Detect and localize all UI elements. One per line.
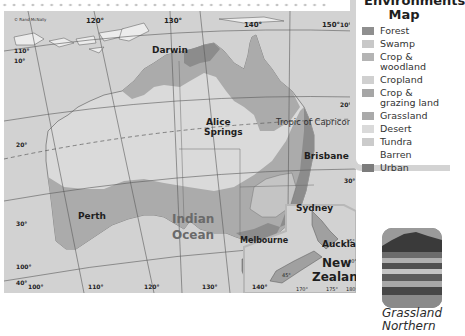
legend-title: Environments Map	[364, 0, 444, 22]
inset-label: Zealand	[312, 270, 356, 284]
lon-label-bottom: 100°	[28, 283, 44, 290]
lon-label-top: 120°	[86, 17, 104, 25]
legend-label: Barren	[380, 150, 412, 160]
legend-label: Crop & woodland	[380, 52, 440, 72]
legend-item-desert: Desert	[362, 124, 442, 134]
legend-item-barren: Barren	[362, 150, 442, 160]
lon-label-left: 100°	[16, 263, 32, 270]
ocean-label: Ocean	[172, 228, 214, 242]
legend-item-grassland: Grassland	[362, 111, 442, 121]
inset-label: New	[322, 256, 351, 270]
legend-item-crop-woodland: Crop & woodland	[362, 52, 442, 72]
lon-label-left: 110°	[14, 47, 30, 54]
swatch	[362, 89, 374, 97]
legend-item-crop-grazing: Crop & grazing land	[362, 88, 442, 108]
lon-label-bottom: 120°	[144, 283, 160, 290]
lon-label-top: 150°	[322, 21, 340, 29]
city-alice-springs: Alice	[206, 117, 231, 127]
lat-label-left: 30°	[16, 220, 27, 227]
inset-lon-label: 175°	[326, 286, 339, 292]
lon-label-bottom: 130°	[202, 283, 218, 290]
legend-label: Grassland	[380, 111, 428, 121]
swatch	[362, 27, 374, 35]
lon-label-bottom: 110°	[88, 283, 104, 290]
inset-lat-label: 40°	[348, 258, 356, 264]
legend-item-cropland: Cropland	[362, 75, 442, 85]
lat-label-right: 30°	[344, 177, 355, 184]
city-melbourne: Melbourne	[240, 236, 289, 245]
dotted-top-border	[0, 2, 330, 8]
legend-label: Swamp	[380, 39, 415, 49]
photo-caption: Grassland Northern	[382, 307, 442, 333]
inset-lat-label: 45°	[282, 272, 291, 278]
landscape-image	[382, 228, 442, 308]
city-alice-springs: Springs	[204, 127, 243, 137]
legend-item-forest: Forest	[362, 26, 442, 36]
legend-label: Forest	[380, 26, 409, 36]
legend-label: Urban	[380, 163, 409, 173]
legend-label: Desert	[380, 124, 412, 134]
legend-label: Tundra	[380, 137, 412, 147]
inset-lon-label: 180°	[346, 286, 356, 292]
grassland-photo	[382, 228, 442, 308]
city-darwin: Darwin	[152, 45, 188, 55]
ocean-label: Indian	[172, 212, 214, 226]
swatch	[362, 125, 374, 133]
environments-map: © Rand McNally 120° 130° 140° 150° 110° …	[4, 11, 356, 293]
lon-label-bottom: 140°	[252, 283, 268, 290]
legend-label: Crop & grazing land	[380, 88, 442, 108]
city-brisbane: Brisbane	[304, 151, 349, 161]
swatch	[362, 40, 374, 48]
swatch	[362, 138, 374, 146]
lon-label-top: 140°	[244, 21, 262, 29]
legend-item-urban: Urban	[362, 163, 442, 173]
legend-item-swamp: Swamp	[362, 39, 442, 49]
lon-label-top: 130°	[164, 17, 182, 25]
inset-lon-label: 170°	[296, 286, 309, 292]
lat-label-left: 40°	[16, 279, 27, 286]
swatch	[362, 53, 374, 61]
lat-label-left: 10°	[14, 57, 25, 64]
legend-panel: Environments Map Forest Swamp Crop & woo…	[350, 0, 450, 171]
swatch	[362, 76, 374, 84]
legend-list: Forest Swamp Crop & woodland Cropland Cr…	[362, 26, 442, 176]
lat-label-left: 20°	[16, 141, 27, 148]
tropic-of-capricorn-label: Tropic of Capricorn	[275, 117, 355, 127]
legend-label: Cropland	[380, 75, 423, 85]
swatch	[362, 151, 374, 159]
map-credit: © Rand McNally	[14, 17, 47, 22]
swatch	[362, 164, 374, 172]
legend-item-tundra: Tundra	[362, 137, 442, 147]
city-sydney: Sydney	[296, 203, 333, 213]
swatch	[362, 112, 374, 120]
inset-lat-label: 35°	[346, 238, 355, 244]
legend-title-line2: Map	[364, 8, 444, 22]
city-perth: Perth	[78, 211, 106, 221]
map-canvas: © Rand McNally 120° 130° 140° 150° 110° …	[4, 11, 356, 293]
caption-line2: Northern	[382, 320, 442, 333]
